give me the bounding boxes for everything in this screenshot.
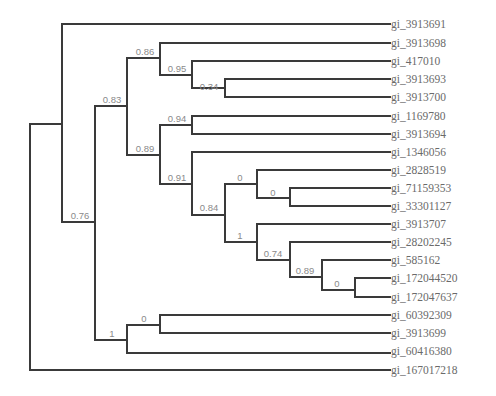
branch-node-b (95, 106, 127, 340)
support-value: 0 (141, 313, 146, 324)
support-value: 0.89 (136, 143, 155, 154)
support-value: 1 (109, 328, 114, 339)
support-value: 0.84 (200, 202, 219, 213)
tree-branches (30, 24, 390, 370)
support-value: 0.95 (168, 63, 187, 74)
branch-node-k (257, 170, 390, 198)
support-values: 0.86 0.95 0.34 0.83 0.94 0.89 0.91 0 0 0… (71, 46, 340, 339)
support-value: 0.34 (200, 81, 219, 92)
leaf-label: gi_585162 (391, 254, 440, 267)
leaf-label: gi_172047637 (391, 291, 458, 304)
phylogenetic-tree: 0.86 0.95 0.34 0.83 0.94 0.89 0.91 0 0 0… (0, 0, 496, 396)
support-value: 0.74 (264, 248, 283, 259)
support-value: 0 (237, 172, 242, 183)
support-value: 0.83 (103, 94, 122, 105)
support-value: 0 (334, 278, 339, 289)
leaf-label: gi_71159353 (391, 182, 452, 195)
leaf-label: gi_3913694 (391, 128, 446, 141)
leaf-label: gi_1169780 (391, 110, 446, 123)
leaf-label: gi_3913693 (391, 73, 446, 86)
leaf-label: gi_1346056 (391, 146, 446, 159)
leaf-label: gi_2828519 (391, 164, 446, 177)
branch-node-f (225, 79, 390, 97)
leaf-label: gi_60416380 (391, 345, 452, 358)
leaf-label: gi_28202245 (391, 236, 452, 249)
leaf-label: gi_3913707 (391, 218, 446, 231)
leaf-label: gi_3913699 (391, 327, 446, 340)
leaf-labels: gi_3913691 gi_3913698 gi_417010 gi_39136… (391, 18, 458, 377)
leaf-label: gi_60392309 (391, 309, 452, 322)
support-value: 0.91 (168, 172, 187, 183)
leaf-label: gi_172044520 (391, 272, 458, 285)
support-value: 0.76 (71, 210, 90, 221)
support-value: 0 (270, 187, 275, 198)
branch-node-h (192, 116, 390, 134)
leaf-label: gi_33301127 (391, 200, 452, 213)
support-value: 0.94 (168, 113, 187, 124)
support-value: 1 (237, 230, 242, 241)
branch-node-l (290, 188, 390, 206)
branch-node-p (355, 278, 390, 297)
leaf-label: gi_3913691 (391, 18, 446, 31)
support-value: 0.89 (296, 265, 315, 276)
leaf-label: gi_417010 (391, 55, 440, 68)
leaf-label: gi_3913698 (391, 37, 446, 50)
branch-node-d (160, 43, 390, 75)
leaf-label: gi_3913700 (391, 91, 446, 104)
support-value: 0.86 (136, 46, 155, 57)
branch-node-c (127, 58, 160, 155)
leaf-label: gi_167017218 (391, 364, 458, 377)
branch-node-e (192, 61, 390, 88)
branch-node-r (160, 315, 390, 333)
branch-node-q (127, 325, 390, 353)
